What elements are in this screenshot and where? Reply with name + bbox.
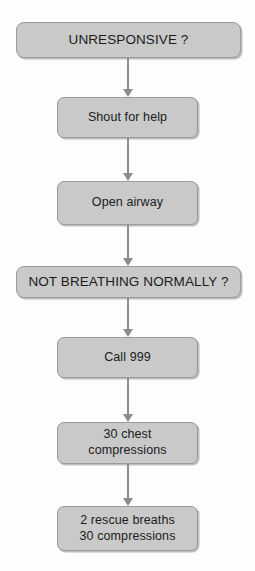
arrow-stem <box>127 138 129 174</box>
arrow-chest-compressions-to-rescue-breaths <box>121 464 135 506</box>
node-not-breathing-normally[interactable]: NOT BREATHING NORMALLY ? <box>16 266 241 298</box>
node-shout-for-help[interactable]: Shout for help <box>57 97 198 138</box>
arrow-open-airway-to-not-breathing-normally <box>121 225 135 266</box>
node-chest-compressions[interactable]: 30 chest compressions <box>57 422 198 464</box>
node-open-airway[interactable]: Open airway <box>57 181 198 225</box>
node-label-call-999: Call 999 <box>100 350 155 366</box>
node-label-unresponsive: UNRESPONSIVE ? <box>65 32 193 49</box>
node-label-open-airway: Open airway <box>88 195 167 211</box>
arrow-head-icon <box>123 173 133 181</box>
arrow-head-icon <box>123 498 133 506</box>
arrow-head-icon <box>123 329 133 337</box>
node-call-999[interactable]: Call 999 <box>57 337 198 378</box>
arrow-not-breathing-normally-to-call-999 <box>121 298 135 337</box>
arrow-stem <box>127 298 129 330</box>
arrow-stem <box>127 464 129 499</box>
flowchart-canvas: UNRESPONSIVE ? Shout for help Open airwa… <box>0 0 255 571</box>
node-rescue-breaths[interactable]: 2 rescue breaths 30 compressions <box>57 506 198 551</box>
arrow-shout-for-help-to-open-airway <box>121 138 135 181</box>
arrow-head-icon <box>123 89 133 97</box>
node-label-not-breathing-normally: NOT BREATHING NORMALLY ? <box>24 274 232 291</box>
arrow-head-icon <box>123 258 133 266</box>
node-label-shout-for-help: Shout for help <box>84 110 171 126</box>
arrow-head-icon <box>123 414 133 422</box>
node-label-chest-compressions: 30 chest compressions <box>84 427 170 458</box>
arrow-stem <box>127 225 129 259</box>
arrow-call-999-to-chest-compressions <box>121 378 135 422</box>
arrow-unresponsive-to-shout-for-help <box>121 58 135 97</box>
node-label-rescue-breaths: 2 rescue breaths 30 compressions <box>76 513 180 544</box>
arrow-stem <box>127 58 129 90</box>
arrow-stem <box>127 378 129 415</box>
node-unresponsive[interactable]: UNRESPONSIVE ? <box>16 22 241 58</box>
